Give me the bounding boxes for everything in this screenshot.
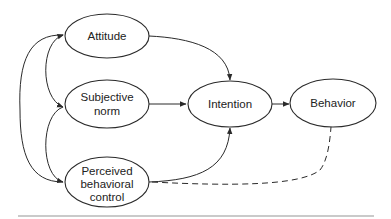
pbc-label-line3: control: [90, 191, 125, 203]
node-attitude: Attitude: [65, 14, 149, 58]
edge-pbc-behavior-dashed: [152, 127, 331, 184]
node-perceived-behavioral-control: Perceived behavioral control: [65, 157, 149, 207]
subjective-norm-label-line1: Subjective: [80, 91, 133, 103]
subjective-norm-label-line2: norm: [94, 105, 120, 117]
edge-pbc-intention: [149, 128, 230, 182]
tpb-diagram: Attitude Subjective norm Perceived behav…: [0, 0, 391, 219]
pbc-label-line1: Perceived: [81, 165, 132, 177]
attitude-label: Attitude: [88, 30, 127, 42]
node-subjective-norm: Subjective norm: [65, 80, 149, 128]
node-intention: Intention: [188, 81, 272, 127]
edge-attitude-subjective-norm: [46, 35, 63, 107]
intention-label: Intention: [208, 98, 252, 110]
node-behavior: Behavior: [290, 79, 376, 127]
edge-attitude-pbc-outer: [20, 35, 63, 182]
behavior-label: Behavior: [310, 97, 356, 109]
pbc-label-line2: behavioral: [80, 178, 133, 190]
subjective-norm-ellipse: [65, 80, 149, 128]
edge-attitude-intention: [149, 36, 230, 80]
edge-subjective-norm-pbc: [46, 107, 63, 182]
